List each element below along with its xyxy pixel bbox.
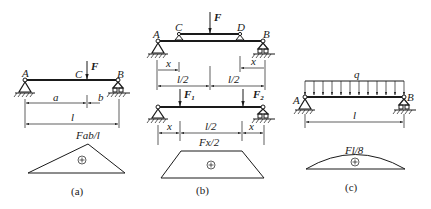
label-half-right: l/2 bbox=[228, 73, 240, 85]
beam-diagrams: F A C B a b l Fab/l (a) bbox=[0, 0, 431, 209]
load-arrows bbox=[305, 81, 404, 95]
label-force-f: F bbox=[90, 60, 99, 72]
label-dim-a: a bbox=[53, 91, 59, 103]
caption-b: (b) bbox=[196, 184, 209, 197]
panel-c: q A B l Fl/8 (c) bbox=[292, 68, 416, 194]
panel-a: F A C B a b l Fab/l (a) bbox=[14, 60, 130, 198]
label-load-q: q bbox=[354, 68, 360, 80]
moment-diagram-a bbox=[28, 144, 125, 173]
label-x-left: x bbox=[165, 57, 171, 69]
label-dim-b: b bbox=[98, 91, 104, 103]
label-force-f2: F2 bbox=[252, 88, 264, 102]
label-point-b: B bbox=[117, 68, 124, 80]
label-point-b: B bbox=[407, 91, 414, 103]
label-force-f: F bbox=[213, 11, 222, 23]
label-half-bottom: l/2 bbox=[205, 120, 217, 132]
label-point-c: C bbox=[175, 21, 183, 33]
label-dim-l: l bbox=[71, 111, 74, 123]
label-half-left: l/2 bbox=[177, 73, 189, 85]
label-force-f1: F1 bbox=[183, 88, 195, 102]
moment-label-b: Fx/2 bbox=[198, 136, 220, 148]
moment-diagram-b bbox=[161, 151, 264, 178]
label-x-right-bottom: x bbox=[248, 120, 254, 132]
label-x-right: x bbox=[250, 55, 256, 67]
label-point-a: A bbox=[152, 28, 160, 40]
caption-a: (a) bbox=[71, 185, 84, 198]
label-point-b: B bbox=[263, 28, 270, 40]
label-point-d: D bbox=[236, 21, 245, 33]
label-point-a: A bbox=[21, 67, 29, 79]
label-point-a: A bbox=[292, 94, 300, 106]
label-dim-l: l bbox=[353, 109, 356, 121]
caption-c: (c) bbox=[345, 181, 358, 194]
panel-b: F A C D B x x l/2 l/2 F1 F2 bbox=[147, 11, 275, 197]
moment-label-a: Fab/l bbox=[75, 129, 100, 141]
label-point-c: C bbox=[75, 68, 83, 80]
label-x-left-bottom: x bbox=[166, 120, 172, 132]
